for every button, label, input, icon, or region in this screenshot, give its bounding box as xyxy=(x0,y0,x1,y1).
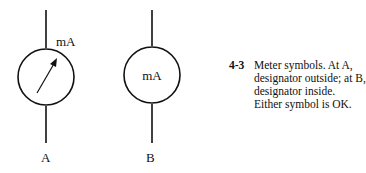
meter-needle-arrow xyxy=(37,62,55,93)
figure-number: 4-3 xyxy=(229,59,244,71)
figure-caption: Meter symbols. At A, designator outside;… xyxy=(254,59,366,111)
label-b: B xyxy=(146,150,155,165)
designator-b: mA xyxy=(142,68,162,83)
designator-a: mA xyxy=(56,34,76,49)
meter-symbol-a xyxy=(18,10,74,143)
label-a: A xyxy=(41,150,51,165)
